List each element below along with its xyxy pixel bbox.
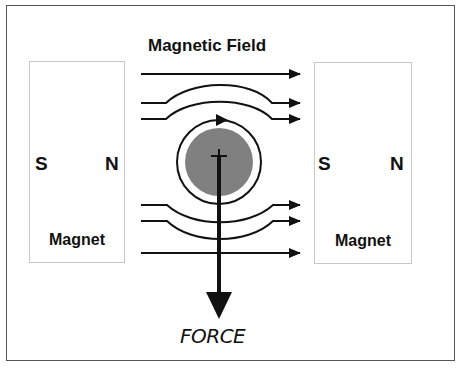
force-label: FORCE — [180, 324, 245, 348]
field-line-upper-1 — [141, 85, 300, 103]
ring-arrow-icon — [216, 114, 228, 126]
force-arrow-head-icon — [206, 292, 232, 319]
field-lines-drawing — [0, 0, 459, 371]
